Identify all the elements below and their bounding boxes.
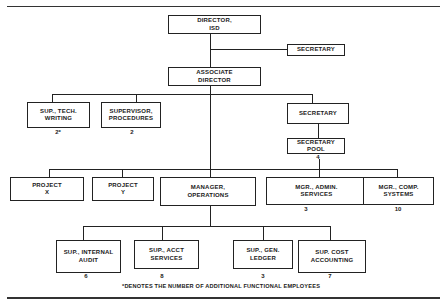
- node-label: ACCOUNTING: [311, 257, 354, 265]
- connector: [52, 94, 313, 95]
- connector: [136, 94, 137, 102]
- footnote: *DENOTES THE NUMBER OF ADDITIONAL FUNCTI…: [122, 283, 320, 289]
- employee-count: 4: [303, 154, 333, 160]
- node-label: PROCEDURES: [109, 115, 153, 123]
- node-project-y: PROJECT Y: [92, 177, 154, 201]
- node-label: SECRETARY: [297, 139, 335, 147]
- node-sup-internal-audit: SUP., INTERNAL AUDIT: [56, 240, 121, 273]
- connector: [330, 226, 331, 240]
- node-sup-cost-accounting: SUP. COST ACCOUNTING: [298, 240, 366, 273]
- node-label: DIRECTOR,: [197, 17, 232, 25]
- connector: [397, 169, 398, 177]
- employee-count: 6: [71, 273, 101, 279]
- node-label: SUPERVISOR,: [109, 108, 152, 116]
- node-secretary-pool: SECRETARY POOL: [287, 138, 345, 154]
- connector: [210, 49, 287, 50]
- connector: [312, 94, 313, 103]
- node-label: ISD: [209, 25, 220, 33]
- node-label: ASSOCIATE: [196, 69, 232, 77]
- node-label: SERVICES: [151, 255, 183, 263]
- node-label: X: [45, 189, 49, 197]
- node-label: MGR., COMP.: [378, 184, 418, 192]
- node-mgr-comp-systems: MGR., COMP. SYSTEMS: [363, 177, 434, 205]
- node-project-x: PROJECT X: [10, 177, 84, 201]
- node-label: PROJECT: [108, 182, 138, 190]
- connector: [83, 226, 84, 240]
- node-label: WRITING: [45, 115, 72, 123]
- connector: [122, 169, 123, 177]
- connector: [210, 33, 211, 177]
- node-label: SUP. COST: [315, 249, 348, 257]
- node-label: DIRECTOR: [198, 77, 231, 85]
- node-sup-tech-writing: SUP., TECH. WRITING: [27, 102, 90, 128]
- employee-count: 10: [383, 206, 413, 212]
- employee-count: 3: [248, 273, 278, 279]
- employee-count: 8: [147, 273, 177, 279]
- node-label: SUP., GEN.: [246, 247, 279, 255]
- node-label: LEDGER: [250, 255, 276, 263]
- node-secretary-right: SECRETARY: [287, 103, 349, 124]
- node-director: DIRECTOR, ISD: [168, 15, 261, 34]
- node-label: MANAGER,: [191, 184, 225, 192]
- connector: [162, 226, 163, 240]
- node-associate-director: ASSOCIATE DIRECTOR: [168, 67, 261, 86]
- node-label: POOL: [307, 146, 325, 154]
- connector: [210, 205, 211, 226]
- connector: [263, 226, 264, 240]
- node-secretary-top: SECRETARY: [287, 44, 345, 56]
- node-label: Y: [121, 189, 125, 197]
- node-label: PROJECT: [32, 182, 62, 190]
- node-label: SECRETARY: [299, 110, 337, 118]
- node-label: SUP., INTERNAL: [64, 249, 114, 257]
- connector: [318, 123, 319, 138]
- node-label: SYSTEMS: [383, 191, 413, 199]
- node-mgr-admin-services: MGR., ADMIN. SERVICES: [266, 177, 367, 205]
- node-label: AUDIT: [79, 257, 98, 265]
- node-label: SUP., TECH.: [40, 108, 77, 116]
- connector: [49, 169, 398, 170]
- node-sup-acct-services: SUP., ACCT SERVICES: [134, 240, 199, 269]
- node-manager-operations: MANAGER, OPERATIONS: [160, 177, 256, 206]
- connector: [49, 169, 50, 177]
- employee-count: 2: [117, 129, 147, 135]
- employee-count: 2*: [43, 129, 73, 135]
- employee-count: 7: [315, 273, 345, 279]
- node-label: SERVICES: [301, 191, 333, 199]
- connector: [319, 159, 320, 177]
- employee-count: 3: [291, 206, 321, 212]
- node-supervisor-procedures: SUPERVISOR, PROCEDURES: [101, 102, 161, 128]
- node-label: OPERATIONS: [187, 192, 228, 200]
- node-label: SUP., ACCT: [149, 247, 184, 255]
- connector: [83, 226, 330, 227]
- node-label: MGR., ADMIN.: [295, 184, 338, 192]
- node-label: SECRETARY: [297, 46, 335, 54]
- connector: [52, 94, 53, 102]
- node-sup-gen-ledger: SUP., GEN. LEDGER: [233, 240, 293, 269]
- top-rule: [7, 6, 440, 7]
